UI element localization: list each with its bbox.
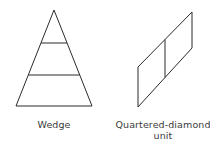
- quartered-diamond-label-line2: unit: [114, 130, 210, 141]
- quartered-diamond-shape: [138, 12, 192, 107]
- quartered-diamond-label: Quartered-diamond unit: [114, 119, 210, 141]
- wedge-label: Wedge: [14, 119, 94, 130]
- wedge-triangle-outline: [16, 10, 92, 106]
- wedge-shape: [16, 10, 92, 106]
- wedge-label-text: Wedge: [37, 119, 70, 130]
- quartered-diamond-label-line1: Quartered-diamond: [114, 119, 210, 130]
